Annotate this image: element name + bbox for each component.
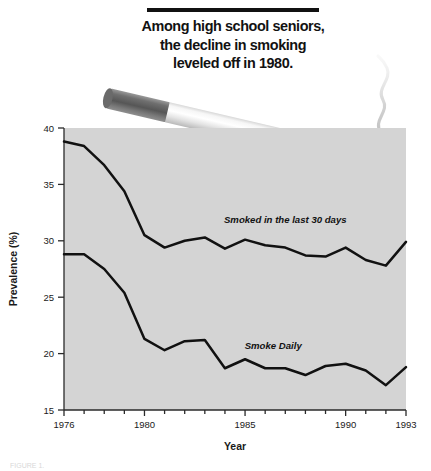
y-tick-label-20: 20 (43, 348, 54, 359)
x-tick-label-1980: 1980 (134, 419, 155, 430)
y-tick-label-40: 40 (43, 123, 54, 134)
line-chart: 152025303540 19761980198519901993 Smoked… (0, 0, 431, 471)
figure-smoking-prevalence: Among high school seniors, the decline i… (0, 0, 431, 471)
y-axis-ticks: 152025303540 (43, 123, 64, 416)
x-tick-label-1990: 1990 (335, 419, 356, 430)
x-axis-title: Year (224, 440, 246, 452)
x-tick-label-1985: 1985 (234, 419, 255, 430)
x-tick-label-1993: 1993 (395, 419, 416, 430)
y-tick-label-25: 25 (43, 292, 54, 303)
x-tick-label-1976: 1976 (53, 419, 74, 430)
series-annotation-smoked-30-days: Smoked in the last 30 days (224, 214, 347, 225)
x-axis-ticks: 19761980198519901993 (53, 410, 416, 430)
y-axis-title: Prevalence (%) (7, 232, 19, 307)
y-tick-label-15: 15 (43, 405, 54, 416)
figure-caption: FIGURE 1. (10, 462, 430, 471)
series-annotation-smoke-daily: Smoke Daily (245, 340, 303, 351)
y-tick-label-30: 30 (43, 235, 54, 246)
y-tick-label-35: 35 (43, 179, 54, 190)
